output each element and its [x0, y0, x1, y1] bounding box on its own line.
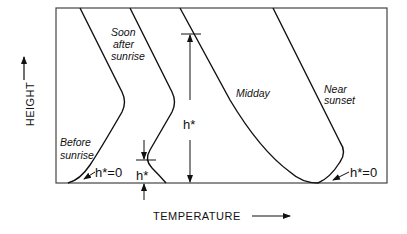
near-sunset-pointer [333, 172, 349, 180]
midday-h-label: h* [183, 117, 195, 132]
curve-soon-after-sunrise [130, 8, 175, 183]
diagram-canvas: h* h* h*=0 h*=0 Before sunrise Soon afte… [0, 0, 407, 234]
label-soon-after-3: sunrise [111, 50, 145, 62]
before-sunrise-pointer [84, 172, 95, 179]
before-sunrise-h-label: h*=0 [95, 165, 122, 180]
x-axis-label: TEMPERATURE [153, 210, 241, 222]
near-sunset-h-label: h*=0 [350, 165, 377, 180]
label-before-sunrise-2: sunrise [60, 149, 94, 161]
label-soon-after-2: after [113, 38, 135, 50]
label-before-sunrise-1: Before [60, 136, 91, 148]
label-near-sunset-2: sunset [324, 94, 356, 106]
label-soon-after-1: Soon [111, 26, 136, 38]
label-midday: Midday [236, 87, 271, 99]
y-axis-label: HEIGHT [24, 82, 36, 127]
soon-h-label: h* [136, 168, 148, 183]
